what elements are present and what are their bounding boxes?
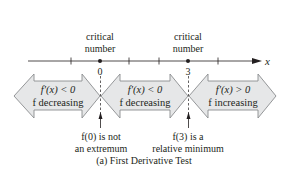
- critical-point-dot-0: [98, 59, 102, 63]
- up-arrow-icon: [99, 112, 103, 119]
- pointer-arrow-0: [99, 112, 103, 128]
- first-derivative-test-diagram: x critical number 0 critical number 3 f′…: [0, 0, 294, 176]
- interval-arrow-middle: [101, 74, 188, 118]
- interval-arrow-right: [189, 74, 276, 118]
- up-arrow-icon: [187, 112, 191, 119]
- axis-label: x: [264, 55, 270, 67]
- svg-text:f′(x) < 0: f′(x) < 0: [128, 84, 163, 96]
- annotation-0: f(0) is not an extremum: [75, 131, 128, 154]
- pointer-arrow-3: [187, 112, 191, 128]
- svg-text:critical: critical: [174, 31, 202, 42]
- svg-text:f decreasing: f decreasing: [119, 97, 171, 108]
- svg-text:f decreasing: f decreasing: [32, 97, 84, 108]
- svg-text:f′(x) < 0: f′(x) < 0: [41, 84, 76, 96]
- svg-text:3: 3: [186, 66, 191, 77]
- svg-text:f(3) is a: f(3) is a: [172, 131, 204, 143]
- interval-arrow-left: [14, 74, 100, 118]
- svg-text:critical: critical: [86, 31, 114, 42]
- svg-text:number: number: [85, 43, 116, 54]
- svg-text:relative minimum: relative minimum: [152, 143, 224, 154]
- svg-text:f(0) is not: f(0) is not: [81, 131, 121, 143]
- svg-text:f′(x) > 0: f′(x) > 0: [216, 84, 251, 96]
- interval-arrows: [14, 74, 276, 118]
- caption: (a) First Derivative Test: [96, 155, 192, 167]
- axis-arrowhead-icon: [252, 58, 262, 64]
- svg-text:an extremum: an extremum: [75, 143, 128, 154]
- svg-text:0: 0: [98, 66, 103, 77]
- svg-text:f increasing: f increasing: [208, 97, 258, 108]
- critical-point-dot-3: [186, 59, 190, 63]
- annotation-3: f(3) is a relative minimum: [152, 131, 224, 154]
- critical-label-3: critical number 3: [173, 31, 204, 77]
- critical-label-0: critical number 0: [85, 31, 116, 77]
- svg-text:number: number: [173, 43, 204, 54]
